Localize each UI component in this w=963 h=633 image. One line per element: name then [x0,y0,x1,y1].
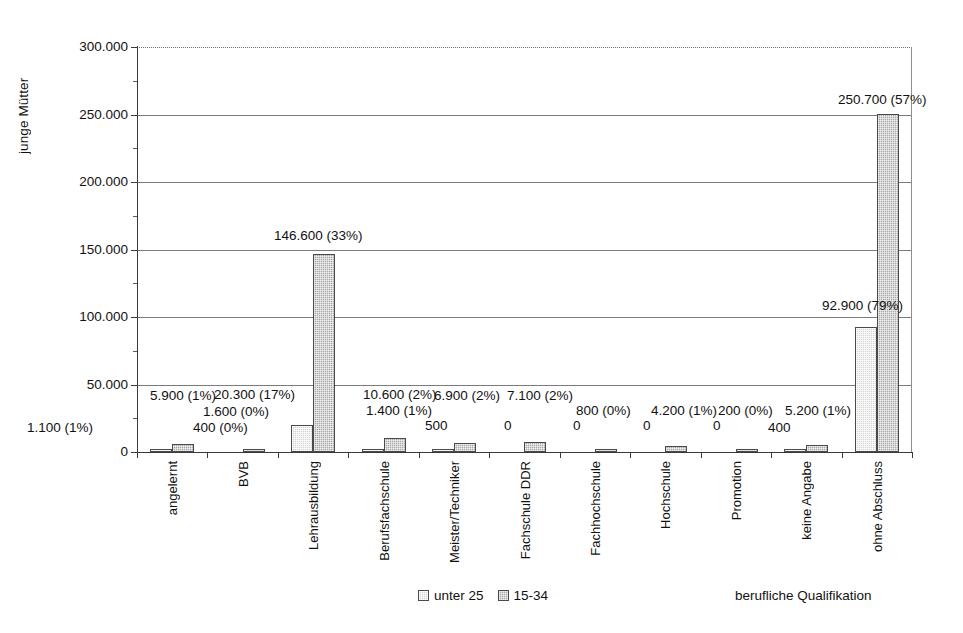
bar-group-inner [630,47,700,452]
bar-group [630,47,700,452]
y-axis-tick-label: 250.000 [16,108,128,122]
y-axis-tick-label: 150.000 [16,243,128,257]
data-label-15-34: 146.600 (33%) [274,229,363,243]
data-label-unter-25: 0 [573,419,581,433]
data-label-15-34: 10.600 (2%) [363,388,437,402]
x-axis-category-label: ohne Abschluss [870,461,885,552]
x-axis-tick [842,452,843,458]
bar [736,449,758,452]
x-axis-category-label: Berufsfachschule [377,461,392,561]
data-label-unter-25: 500 [425,419,448,433]
bar-group [701,47,771,452]
x-axis-category-label: Promotion [729,461,744,520]
data-label-15-34: 250.700 (57%) [838,93,927,107]
bar [595,449,617,452]
bar [384,438,406,452]
bar [524,442,546,452]
legend-entry: unter 25 [418,588,484,603]
bar [855,327,877,452]
x-axis-category-label: Hochschule [658,461,673,529]
x-axis-category-label: keine Angabe [799,461,814,540]
data-label-unter-25: 0 [504,419,512,433]
bar-group-inner [771,47,841,452]
bar [784,449,806,452]
x-axis-tick [489,452,490,458]
bar-group-inner [701,47,771,452]
x-axis-tick [419,452,420,458]
bar-group [842,47,912,452]
x-axis-tick [348,452,349,458]
x-axis-title: berufliche Qualifikation [735,588,872,603]
data-label-15-34: 7.100 (2%) [507,389,573,403]
bar-group [771,47,841,452]
data-label-15-34: 1.600 (0%) [203,405,269,419]
bar-group-inner [842,47,912,452]
x-axis-tick [207,452,208,458]
x-axis-tick [278,452,279,458]
x-axis-tick [630,452,631,458]
data-label-15-34: 5.900 (1%) [150,389,216,403]
x-axis-category-label: Lehrausbildung [306,461,321,550]
bar [172,444,194,452]
data-label-15-34: 200 (0%) [718,404,773,418]
y-axis-tick-label: 0 [16,445,128,459]
bar [665,446,687,452]
legend-label: 15-34 [514,588,549,603]
x-axis-category-label: BVB [236,461,251,487]
bar [313,254,335,452]
data-label-unter-25: 0 [713,419,721,433]
data-label-unter-25: 0 [643,419,651,433]
data-label-unter-25: 400 [768,421,791,435]
bar [432,449,454,452]
x-axis-tick [137,452,138,458]
bar [150,449,172,452]
data-label-15-34: 4.200 (1%) [651,404,717,418]
y-axis-tick-label: 300.000 [16,40,128,54]
y-axis-tick-label: 200.000 [16,175,128,189]
bar [291,425,313,452]
x-axis-category-label: Meister/Techniker [447,461,462,563]
x-axis-tick [560,452,561,458]
bar [362,449,384,452]
bar [243,449,265,452]
data-label-unter-25: 1.100 (1%) [27,421,93,435]
legend-entry: 15-34 [498,588,549,603]
legend-swatch [418,590,429,601]
data-label-15-34: 800 (0%) [576,404,631,418]
x-axis-category-label: Fachschule DDR [518,461,533,559]
chart-canvas: junge Mütter 050.000100.000150.000200.00… [0,0,963,633]
bar [806,445,828,452]
x-axis-tick [701,452,702,458]
legend-swatch [498,590,509,601]
legend: unter 2515-34 [418,588,548,603]
data-label-unter-25: 20.300 (17%) [214,388,295,402]
x-axis-line [137,452,913,453]
x-axis-category-label: Fachhochschule [588,461,603,556]
x-axis-tick [771,452,772,458]
x-axis-tick [912,452,913,458]
y-axis-tick-label: 50.000 [16,378,128,392]
data-label-15-34: 5.200 (1%) [785,404,851,418]
data-label-15-34: 6.900 (2%) [434,389,500,403]
bar [454,443,476,452]
x-axis-category-label: angelernt [165,461,180,515]
data-label-unter-25: 92.900 (79%) [822,299,903,313]
legend-label: unter 25 [434,588,484,603]
data-label-extra: 400 (0%) [193,421,248,435]
y-axis-tick-labels: 050.000100.000150.000200.000250.000300.0… [12,0,128,633]
bar [877,114,899,452]
data-label-unter-25: 1.400 (1%) [366,404,432,418]
y-axis-tick-label: 100.000 [16,310,128,324]
